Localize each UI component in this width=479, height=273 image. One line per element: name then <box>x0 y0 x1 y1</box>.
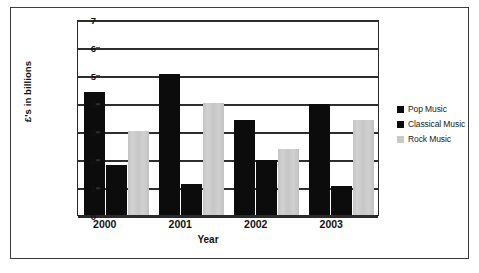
legend-item-classical-music: Classical Music <box>397 119 479 129</box>
legend-label: Pop Music <box>408 104 447 114</box>
x-axis-title: Year <box>77 234 379 245</box>
y-tick-label-4: 4 <box>66 99 96 110</box>
y-tick-mark-3 <box>96 131 100 133</box>
y-tick-label-2: 2 <box>66 155 96 166</box>
x-tick-label-2002: 2002 <box>228 218 304 234</box>
y-tick-mark-1 <box>96 187 100 189</box>
bar-2003-classical-music <box>331 186 352 215</box>
bar-group-2002 <box>228 21 303 215</box>
y-tick-mark-5 <box>96 75 100 77</box>
bar-2000-pop-music <box>84 92 105 215</box>
legend-label: Classical Music <box>408 119 465 129</box>
y-tick-label-3: 3 <box>66 127 96 138</box>
x-tick-label-2001: 2001 <box>153 218 229 234</box>
legend-swatch-icon <box>397 121 404 128</box>
legend-item-pop-music: Pop Music <box>397 104 479 114</box>
x-tick-label-2003: 2003 <box>304 218 380 234</box>
bar-2002-rock-music <box>278 149 299 215</box>
bar-group-2001 <box>153 21 228 215</box>
bar-2002-classical-music <box>256 160 277 215</box>
bar-2002-pop-music <box>234 120 255 215</box>
bar-2001-pop-music <box>159 74 180 215</box>
y-tick-label-0: 0 <box>66 211 96 222</box>
legend-label: Rock Music <box>408 134 451 144</box>
bar-2003-rock-music <box>353 120 374 215</box>
bar-2000-rock-music <box>128 131 149 215</box>
chart-legend: Pop MusicClassical MusicRock Music <box>397 104 479 149</box>
bar-group-2003 <box>303 21 378 215</box>
y-tick-mark-2 <box>96 159 100 161</box>
y-tick-label-6: 6 <box>66 43 96 54</box>
legend-item-rock-music: Rock Music <box>397 134 479 144</box>
bar-2003-pop-music <box>309 104 330 215</box>
y-tick-mark-6 <box>96 47 100 49</box>
y-tick-label-1: 1 <box>66 183 96 194</box>
y-axis-title: £'s in billions <box>22 32 33 152</box>
bars-layer <box>78 21 378 215</box>
plot-area <box>77 20 379 216</box>
legend-swatch-icon <box>397 136 404 143</box>
y-tick-label-7: 7 <box>66 15 96 26</box>
legend-swatch-icon <box>397 106 404 113</box>
bar-2001-rock-music <box>203 103 224 215</box>
x-axis-tick-labels: 2000200120022003 <box>77 218 379 234</box>
bar-2001-classical-music <box>181 184 202 215</box>
bar-2000-classical-music <box>106 165 127 215</box>
figure-frame: £'s in billions 2000200120022003 Year Po… <box>10 7 469 259</box>
y-tick-mark-4 <box>96 103 100 105</box>
y-tick-label-5: 5 <box>66 71 96 82</box>
